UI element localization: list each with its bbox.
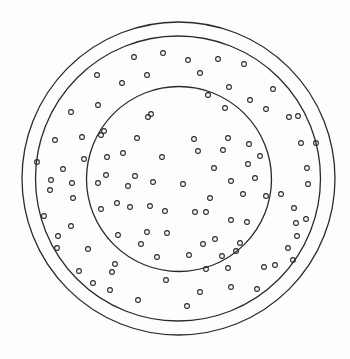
inner-dot bbox=[220, 254, 225, 259]
inner-dot bbox=[193, 210, 198, 215]
inner-dot bbox=[139, 242, 144, 247]
outer-band-dot bbox=[49, 178, 54, 183]
outer-band-dot bbox=[216, 57, 221, 62]
inner-dot bbox=[145, 230, 150, 235]
outer-band-dot bbox=[42, 214, 47, 219]
outer-band-dot bbox=[69, 110, 74, 115]
inner-dot bbox=[248, 98, 253, 103]
outer-band-dot bbox=[294, 221, 299, 226]
outer-band-dot bbox=[56, 234, 61, 239]
outer-band-dot bbox=[80, 135, 85, 140]
inner-dot bbox=[151, 180, 156, 185]
inner-dot bbox=[253, 176, 258, 181]
inner-dot bbox=[160, 155, 165, 160]
inner-dot bbox=[238, 241, 243, 246]
outer-band-dot bbox=[287, 115, 292, 120]
inner-dot bbox=[126, 184, 131, 189]
inner-dot bbox=[245, 220, 250, 225]
inner-dot bbox=[105, 155, 110, 160]
inner-dot bbox=[115, 201, 120, 206]
outer-band-dot bbox=[262, 265, 267, 270]
outer-band-dot bbox=[295, 234, 300, 239]
diagram-canvas bbox=[0, 0, 350, 359]
outer-band-dot bbox=[108, 288, 113, 293]
inner-dot bbox=[133, 174, 138, 179]
outer-band-dot bbox=[161, 51, 166, 56]
outer-band-dot bbox=[53, 138, 58, 143]
outer-band-dot bbox=[255, 287, 260, 292]
outer-band-dot bbox=[120, 81, 125, 86]
inner-dot bbox=[201, 242, 206, 247]
outer-band-dot bbox=[198, 290, 203, 295]
outer-band-dot bbox=[82, 157, 87, 162]
inner-dot bbox=[165, 231, 170, 236]
outer-band-dot bbox=[70, 181, 75, 186]
inner-dot bbox=[181, 182, 186, 187]
inner-dot bbox=[241, 192, 246, 197]
inner-dot bbox=[204, 210, 209, 215]
outer-band-dot bbox=[273, 263, 278, 268]
outer-band-dot bbox=[226, 266, 231, 271]
inner-dot bbox=[99, 207, 104, 212]
outer-band-dot bbox=[86, 247, 91, 252]
inner-dot bbox=[96, 181, 101, 186]
outer-band-dot bbox=[113, 262, 118, 267]
outer-band-dot bbox=[164, 278, 169, 283]
outer-band-dot bbox=[132, 55, 137, 60]
outer-band-dot bbox=[306, 182, 311, 187]
inner-dot bbox=[213, 237, 218, 242]
outer-band-dot bbox=[95, 73, 100, 78]
outer-band-dot bbox=[299, 141, 304, 146]
outer-band-dot bbox=[91, 281, 96, 286]
inner-ring bbox=[87, 87, 272, 272]
outer-band-dot bbox=[229, 285, 234, 290]
inner-dot bbox=[192, 137, 197, 142]
outer-band-dot bbox=[55, 246, 60, 251]
inner-dot bbox=[135, 136, 140, 141]
inner-dot bbox=[196, 149, 201, 154]
outer-band-dot bbox=[77, 269, 82, 274]
outer-band-dot bbox=[185, 304, 190, 309]
outer-band-dot bbox=[279, 192, 284, 197]
inner-dot bbox=[121, 151, 126, 156]
inner-dot bbox=[223, 106, 228, 111]
outer-band-dot bbox=[69, 224, 74, 229]
outer-band-dot bbox=[71, 196, 76, 201]
middle-ring bbox=[36, 36, 321, 321]
dots-group bbox=[35, 51, 319, 309]
inner-dot bbox=[104, 173, 109, 178]
inner-dot bbox=[258, 154, 263, 159]
inner-dot bbox=[128, 205, 133, 210]
outer-band-dot bbox=[271, 87, 276, 92]
inner-dot bbox=[155, 255, 160, 260]
inner-dot bbox=[187, 253, 192, 258]
concentric-circles-diagram bbox=[0, 0, 350, 359]
outer-band-dot bbox=[99, 133, 104, 138]
outer-band-dot bbox=[304, 217, 309, 222]
outer-band-dot bbox=[136, 298, 141, 303]
inner-dot bbox=[264, 107, 269, 112]
outer-band-dot bbox=[48, 188, 53, 193]
inner-dot bbox=[264, 194, 269, 199]
inner-dot bbox=[246, 162, 251, 167]
inner-dot bbox=[221, 148, 226, 153]
inner-dot bbox=[212, 166, 217, 171]
outer-band-dot bbox=[292, 206, 297, 211]
outer-band-dot bbox=[145, 73, 150, 78]
outer-band-dot bbox=[149, 112, 154, 117]
inner-dot bbox=[116, 233, 121, 238]
inner-dot bbox=[163, 209, 168, 214]
outer-band-dot bbox=[305, 166, 310, 171]
inner-dot bbox=[229, 179, 234, 184]
inner-dot bbox=[229, 218, 234, 223]
outer-band-dot bbox=[96, 103, 101, 108]
rings-group bbox=[22, 22, 335, 335]
outer-band-dot bbox=[227, 85, 232, 90]
outer-band-dot bbox=[198, 71, 203, 76]
outer-band-dot bbox=[242, 62, 247, 67]
inner-dot bbox=[226, 136, 231, 141]
inner-dot bbox=[148, 204, 153, 209]
outer-ring bbox=[22, 22, 335, 335]
inner-dot bbox=[208, 196, 213, 201]
inner-dot bbox=[247, 142, 252, 147]
